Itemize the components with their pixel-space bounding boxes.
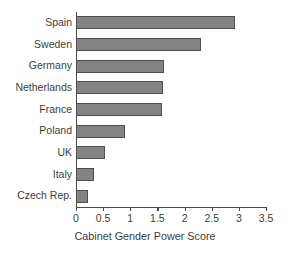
category-label: France: [0, 104, 72, 115]
x-tick-label: 3.5: [259, 212, 274, 224]
x-tick-mark: [157, 207, 158, 212]
category-label: UK: [0, 147, 72, 158]
bar-row: [76, 12, 266, 34]
x-tick-mark: [103, 207, 104, 212]
x-tick-mark: [239, 207, 240, 212]
bar-row: [76, 99, 266, 121]
bar: [76, 16, 235, 29]
category-label: Netherlands: [0, 82, 72, 93]
category-label: Czech Rep.: [0, 190, 72, 201]
category-label: Spain: [0, 17, 72, 28]
category-label: Sweden: [0, 39, 72, 50]
bar: [76, 38, 201, 51]
bar: [76, 103, 162, 116]
x-tick-mark: [266, 207, 267, 212]
bar-row: [76, 34, 266, 56]
bar: [76, 190, 88, 203]
category-label: Germany: [0, 60, 72, 71]
x-tick-label: 1: [127, 212, 133, 224]
category-axis-labels: SpainSwedenGermanyNetherlandsFrancePolan…: [0, 12, 72, 207]
bar-row: [76, 142, 266, 164]
bar: [76, 168, 94, 181]
x-tick-label: 2: [182, 212, 188, 224]
x-tick-mark: [76, 207, 77, 212]
x-tick-mark: [130, 207, 131, 212]
x-tick-label: 3: [236, 212, 242, 224]
category-label: Italy: [0, 169, 72, 180]
x-tick-label: 1.5: [150, 212, 165, 224]
x-tick-label: 0: [73, 212, 79, 224]
bar-row: [76, 164, 266, 186]
category-label: Poland: [0, 125, 72, 136]
x-tick-mark: [185, 207, 186, 212]
bar: [76, 125, 125, 138]
x-tick-label: 0.5: [96, 212, 111, 224]
bar-row: [76, 55, 266, 77]
bar-chart: SpainSwedenGermanyNetherlandsFrancePolan…: [0, 0, 290, 254]
bar: [76, 146, 105, 159]
x-axis-title: Cabinet Gender Power Score: [0, 230, 290, 243]
x-tick-mark: [212, 207, 213, 212]
bar-row: [76, 185, 266, 207]
x-tick-label: 2.5: [204, 212, 219, 224]
bar: [76, 60, 164, 73]
bar-row: [76, 77, 266, 99]
plot-area: [76, 12, 266, 207]
bar: [76, 81, 163, 94]
bar-row: [76, 120, 266, 142]
